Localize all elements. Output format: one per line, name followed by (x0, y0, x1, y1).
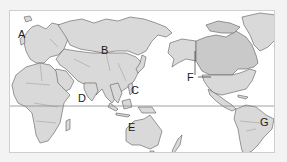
label-e: E (128, 122, 135, 133)
arctic-islands (206, 21, 240, 33)
tasmania (150, 151, 154, 153)
label-a: A (18, 29, 25, 40)
label-b: B (101, 45, 108, 56)
new-guinea (138, 107, 156, 113)
map-graphic (10, 11, 275, 153)
cuba (238, 95, 248, 99)
borneo (122, 99, 132, 109)
iceland (24, 16, 32, 22)
alaska (168, 39, 196, 67)
label-g: G (260, 117, 269, 128)
new-zealand (172, 135, 182, 153)
label-f: F (187, 72, 194, 83)
world-map: A B C D E F G (9, 10, 275, 153)
madagascar (66, 119, 70, 131)
russia (58, 17, 172, 55)
label-c: C (131, 85, 139, 96)
india (84, 83, 98, 101)
label-d: D (78, 93, 86, 104)
canada (196, 31, 258, 75)
south-america (234, 105, 274, 153)
sumatra (108, 103, 118, 111)
java (116, 113, 130, 117)
